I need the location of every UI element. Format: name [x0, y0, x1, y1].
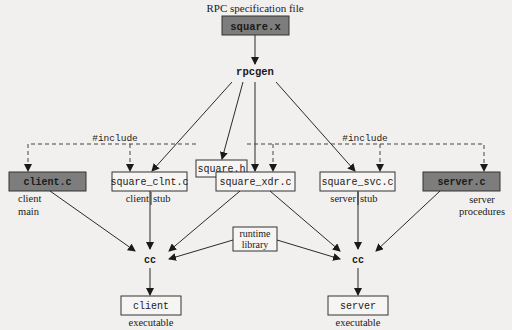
stub-dividers	[0, 0, 512, 330]
